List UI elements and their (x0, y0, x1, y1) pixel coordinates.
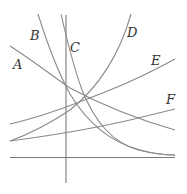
label-c: C (70, 40, 80, 55)
curve-c (61, 14, 175, 155)
label-e: E (150, 53, 161, 68)
curve-e (10, 59, 175, 124)
label-b: B (29, 28, 40, 43)
label-a: A (12, 57, 22, 72)
label-f: F (165, 92, 176, 107)
curve-d (10, 14, 131, 141)
curve-f (10, 109, 175, 141)
label-d: D (126, 25, 138, 40)
exponential-curves-diagram: A B C D E F (0, 0, 187, 194)
